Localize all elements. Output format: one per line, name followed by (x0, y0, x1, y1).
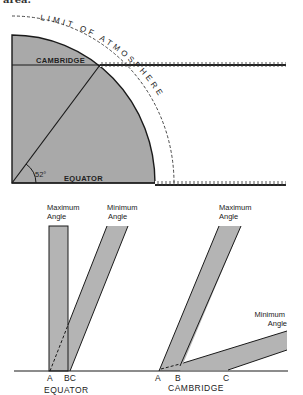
equator-max-angle-label: Maximum Angle (47, 203, 82, 221)
equator-place-label: EQUATOR (44, 385, 89, 395)
cambridge-place-label: CAMBRIDGE (168, 383, 224, 393)
cambridge-point-a: A (155, 373, 161, 383)
equator-point-bc: BC (64, 373, 76, 383)
equator-max-angle-band (49, 226, 68, 371)
equator-point-a: A (47, 373, 53, 383)
sun-ray-cambridge (100, 62, 286, 67)
cambridge-min-angle-band (180, 331, 287, 370)
latitude-angle-label: 52° (35, 170, 46, 179)
cambridge-label: CAMBRIDGE (36, 56, 85, 65)
cambridge-point-b: B (175, 373, 181, 383)
equator-label: EQUATOR (64, 174, 103, 183)
sun-ray-equator (155, 181, 286, 186)
equator-diagram: Maximum Angle Minimum Angle A BC EQUATOR (44, 203, 140, 395)
equator-min-angle-label: Minimum Angle (107, 203, 140, 221)
cambridge-min-angle-label: Minimum Angle (254, 310, 287, 328)
cambridge-point-c: C (223, 373, 229, 383)
cambridge-diagram: Maximum Angle Minimum Angle A B C CAMBRI… (155, 203, 287, 393)
cambridge-max-angle-label: Maximum Angle (219, 203, 254, 221)
solar-angle-diagram: 52° CAMBRIDGE EQUATOR LIMIT OF ATMOSPHER… (0, 0, 303, 395)
